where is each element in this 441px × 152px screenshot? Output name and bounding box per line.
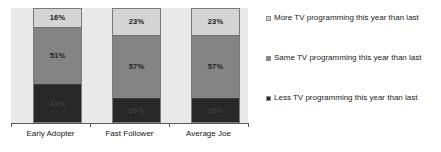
x-axis-tick-3 bbox=[248, 123, 249, 127]
legend-item-less[interactable]: Less TV programming this year than last bbox=[266, 94, 417, 102]
bar-slot-average-joe: 23% 57% 20% bbox=[191, 8, 240, 123]
bar-segment-same-fast-follower[interactable]: 57% bbox=[113, 35, 160, 99]
x-axis-label-early-adopter: Early Adopter bbox=[11, 130, 90, 138]
bar-slot-fast-follower: 23% 57% 20% bbox=[112, 8, 161, 123]
bar-segment-same-early-adopter[interactable]: 51% bbox=[34, 27, 81, 85]
legend-swatch-less-icon bbox=[266, 96, 271, 101]
bar-segment-less-fast-follower[interactable]: 20% bbox=[113, 99, 160, 122]
plot-area: 16% 51% 33% 23% 57% 20% bbox=[11, 8, 248, 123]
legend-item-same[interactable]: Same TV programming this year than last bbox=[266, 54, 421, 62]
bar-segment-less-average-joe[interactable]: 20% bbox=[192, 99, 239, 122]
bar-segment-label-same-early-adopter: 51% bbox=[50, 52, 65, 60]
bar-segment-label-less-fast-follower: 20% bbox=[129, 107, 144, 115]
bar-segment-label-same-average-joe: 57% bbox=[208, 63, 223, 71]
bar-segment-more-average-joe[interactable]: 23% bbox=[192, 9, 239, 35]
bar-segment-less-early-adopter[interactable]: 33% bbox=[34, 85, 81, 122]
bar-segment-label-less-average-joe: 20% bbox=[208, 107, 223, 115]
bar-segment-label-more-early-adopter: 16% bbox=[50, 14, 65, 22]
bar-slot-early-adopter: 16% 51% 33% bbox=[33, 8, 82, 123]
bar-segment-label-more-average-joe: 23% bbox=[208, 18, 223, 26]
x-axis-label-fast-follower: Fast Follower bbox=[90, 130, 169, 138]
bar-segment-same-average-joe[interactable]: 57% bbox=[192, 35, 239, 99]
legend-swatch-more-icon bbox=[266, 16, 271, 21]
bar-fast-follower[interactable]: 23% 57% 20% bbox=[112, 8, 161, 123]
x-axis-tick-1 bbox=[90, 123, 91, 127]
bar-segment-label-same-fast-follower: 57% bbox=[129, 63, 144, 71]
x-axis-tick-0 bbox=[11, 123, 12, 127]
bar-segment-label-less-early-adopter: 33% bbox=[50, 100, 65, 108]
x-axis-line bbox=[11, 123, 248, 124]
legend-item-more[interactable]: More TV programming this year than last bbox=[266, 14, 419, 22]
bar-segment-more-fast-follower[interactable]: 23% bbox=[113, 9, 160, 35]
bar-segment-more-early-adopter[interactable]: 16% bbox=[34, 9, 81, 27]
x-axis-label-average-joe: Average Joe bbox=[169, 130, 248, 138]
bar-average-joe[interactable]: 23% 57% 20% bbox=[191, 8, 240, 123]
bar-early-adopter[interactable]: 16% 51% 33% bbox=[33, 8, 82, 123]
stacked-bar-chart: 16% 51% 33% 23% 57% 20% bbox=[0, 0, 441, 152]
chart-legend: More TV programming this year than last … bbox=[266, 14, 438, 110]
x-axis-tick-2 bbox=[169, 123, 170, 127]
legend-swatch-same-icon bbox=[266, 56, 271, 61]
legend-label-less: Less TV programming this year than last bbox=[274, 94, 417, 102]
bar-segment-label-more-fast-follower: 23% bbox=[129, 18, 144, 26]
legend-label-more: More TV programming this year than last bbox=[274, 14, 419, 22]
legend-label-same: Same TV programming this year than last bbox=[274, 54, 421, 62]
